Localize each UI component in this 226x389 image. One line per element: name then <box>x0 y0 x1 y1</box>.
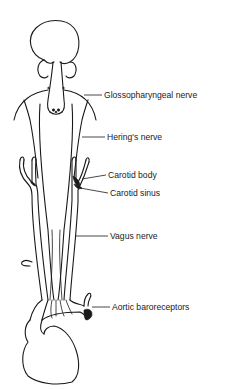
left-carotid <box>19 157 48 300</box>
nucleus-dot-mid <box>55 111 57 113</box>
nucleus-dot-left <box>52 109 54 111</box>
label-carotid-body: Carotid body <box>108 170 157 180</box>
glossopharyngeal-nerves <box>14 90 96 178</box>
baroreceptor-diagram: Glossopharyngeal nerve Hering's nerve Ca… <box>0 0 226 389</box>
labels: Glossopharyngeal nerve Hering's nerve Ca… <box>104 90 197 312</box>
heart <box>23 320 79 384</box>
nucleus-dot-right <box>57 109 59 111</box>
label-carotid-sinus: Carotid sinus <box>110 188 160 198</box>
nerve-root-left <box>48 87 50 89</box>
leader-carotid-body <box>82 175 106 179</box>
label-herings-nerve: Hering's nerve <box>107 132 162 142</box>
brain <box>30 21 78 64</box>
nerve-root-right <box>63 87 65 89</box>
aortic-arch <box>30 293 92 320</box>
label-aortic-baroreceptors: Aortic baroreceptors <box>112 302 189 312</box>
brainstem <box>48 62 65 114</box>
label-vagus-nerve: Vagus nerve <box>110 231 158 241</box>
cerebellum <box>38 60 76 78</box>
leader-carotid-sinus <box>80 188 108 193</box>
label-glossopharyngeal-nerve: Glossopharyngeal nerve <box>104 90 197 100</box>
